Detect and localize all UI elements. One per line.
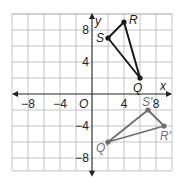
- vertex-point-icon: [161, 123, 166, 128]
- x-tick-label: 4: [121, 97, 128, 111]
- x-tick-label: −4: [53, 97, 67, 111]
- x-axis-label: x: [159, 79, 167, 93]
- y-tick-label: 4: [82, 55, 89, 69]
- y-axis-arrow-down-icon: [89, 171, 95, 177]
- vertex-label: R: [129, 13, 138, 27]
- vertex-label: Q': [96, 141, 108, 155]
- vertex-point-icon: [105, 35, 110, 40]
- y-tick-label: 8: [82, 23, 89, 37]
- coordinate-plane: xyO−8−44884−4−8 QRSQ'R'S': [0, 0, 178, 179]
- origin-label: O: [79, 97, 88, 111]
- x-tick-label: −8: [21, 97, 35, 111]
- vertex-point-icon: [137, 75, 142, 80]
- vertex-point-icon: [121, 19, 126, 24]
- vertex-label: S: [96, 31, 104, 45]
- x-axis-arrow-right-icon: [166, 91, 172, 97]
- vertex-label: R': [160, 129, 172, 143]
- y-tick-label: −4: [75, 119, 89, 133]
- y-axis-label: y: [94, 14, 102, 28]
- vertex-label: S': [142, 95, 153, 109]
- x-tick-label: 8: [153, 97, 160, 111]
- vertex-label: Q: [133, 81, 142, 95]
- x-axis-arrow-left-icon: [12, 91, 18, 97]
- y-tick-label: −8: [75, 151, 89, 165]
